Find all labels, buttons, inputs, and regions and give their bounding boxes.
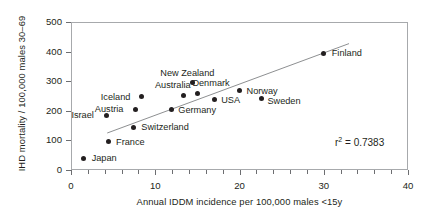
x-tick-mark	[172, 170, 173, 174]
r-squared-value: = 0.7383	[345, 137, 384, 148]
r-squared-annotation: r2 = 0.7383	[335, 136, 384, 148]
x-tick-mark	[155, 170, 156, 175]
x-tick-mark	[189, 170, 190, 174]
data-point-label: USA	[221, 96, 240, 105]
x-tick-label: 10	[135, 181, 175, 191]
y-tick-mark	[66, 111, 71, 112]
data-point-label: France	[116, 138, 145, 147]
x-tick-label: 0	[51, 181, 91, 191]
x-tick-mark	[273, 170, 274, 174]
y-tick-label: 300	[22, 76, 62, 86]
x-tick-mark	[391, 170, 392, 174]
data-point-label: Norway	[247, 87, 278, 96]
x-tick-mark	[357, 170, 358, 174]
y-tick-label: 0	[22, 165, 62, 175]
data-point-label: Denmark	[192, 79, 229, 88]
y-tick-label: 400	[22, 47, 62, 57]
data-point-label: Finland	[332, 49, 362, 58]
x-tick-mark	[206, 170, 207, 174]
y-tick-label: 500	[22, 17, 62, 27]
data-point-label: Iceland	[101, 93, 131, 102]
x-tick-mark	[71, 170, 72, 175]
data-point-marker	[321, 51, 326, 56]
x-tick-mark	[240, 170, 241, 175]
y-tick-mark	[66, 140, 71, 141]
x-tick-mark	[122, 170, 123, 174]
x-tick-mark	[290, 170, 291, 174]
x-tick-label: 40	[388, 181, 428, 191]
x-tick-mark	[223, 170, 224, 174]
x-tick-label: 30	[304, 181, 344, 191]
x-tick-mark	[256, 170, 257, 174]
data-point-label: Israel	[71, 111, 93, 120]
x-axis-label: Annual IDDM incidence per 100,000 males …	[71, 196, 408, 207]
y-tick-label: 200	[22, 106, 62, 116]
x-tick-mark	[341, 170, 342, 174]
data-point-marker	[81, 156, 86, 161]
y-tick-mark	[66, 81, 71, 82]
data-point-label: Japan	[92, 154, 117, 163]
data-point-marker	[106, 139, 111, 144]
x-tick-mark	[324, 170, 325, 175]
x-tick-mark	[138, 170, 139, 174]
data-point-marker	[131, 125, 136, 130]
data-point-label: Sweden	[267, 97, 300, 106]
data-point-label: New Zealand	[160, 69, 214, 78]
x-tick-mark	[105, 170, 106, 174]
data-point-marker	[195, 91, 200, 96]
x-tick-mark	[374, 170, 375, 174]
x-tick-mark	[408, 170, 409, 175]
r-squared-exponent: 2	[338, 136, 342, 143]
y-axis-label: IHD mortality / 100,000 males 30–69	[16, 0, 27, 189]
data-point-label: Switzerland	[141, 123, 189, 132]
y-tick-mark	[66, 22, 71, 23]
y-tick-label: 100	[22, 135, 62, 145]
data-point-label: Austria	[95, 105, 124, 114]
x-tick-mark	[307, 170, 308, 174]
y-tick-mark	[66, 52, 71, 53]
data-point-label: Australia	[155, 81, 191, 90]
x-tick-label: 20	[220, 181, 260, 191]
data-point-label: Germany	[178, 106, 216, 115]
scatter-chart-figure: IHD mortality / 100,000 males 30–69 Annu…	[0, 0, 445, 220]
x-tick-mark	[88, 170, 89, 174]
